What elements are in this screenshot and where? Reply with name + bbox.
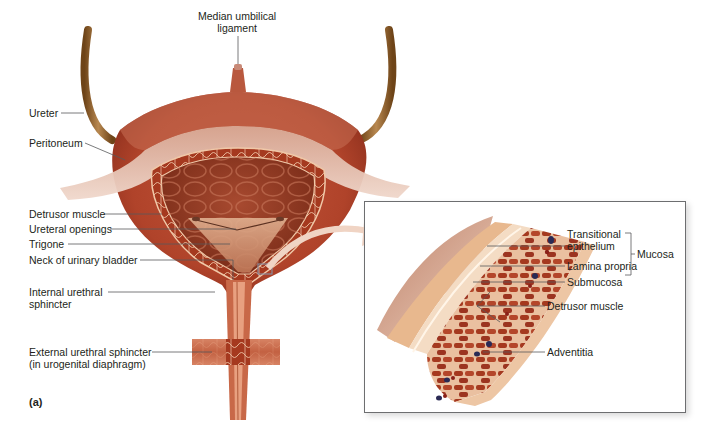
label-lamina-propria: Lamina propria [567, 260, 637, 272]
label-median-umbilical-ligament: Median umbilical ligament [198, 10, 276, 34]
label-line: sphincter [29, 298, 103, 310]
label-detrusor-muscle: Detrusor muscle [29, 208, 105, 220]
right-ureter [360, 30, 392, 140]
label-external-urethral-sphincter: External urethral sphincter (in urogenit… [29, 346, 152, 370]
label-mucosa-bracket: Mucosa [637, 248, 674, 260]
panel-label: (a) [29, 396, 42, 408]
label-trigone: Trigone [29, 238, 64, 250]
label-line: Transitional [567, 228, 621, 240]
label-peritoneum: Peritoneum [29, 137, 83, 149]
label-line: epithelium [567, 240, 621, 252]
label-line: External urethral sphincter [29, 346, 152, 358]
label-ureteral-openings: Ureteral openings [29, 223, 112, 235]
label-internal-urethral-sphincter: Internal urethral sphincter [29, 286, 103, 310]
label-transitional-epithelium: Transitional epithelium [567, 228, 621, 252]
urinary-bladder-diagram: Median umbilical ligament Ureter Periton… [0, 0, 718, 440]
label-line: Internal urethral [29, 286, 103, 298]
label-ureter: Ureter [29, 107, 58, 119]
wall-detail-inset: Transitional epithelium Lamina propria S… [364, 201, 686, 413]
label-line: Median umbilical [198, 10, 276, 22]
wall-section-illustration [365, 202, 685, 412]
label-neck-of-urinary-bladder: Neck of urinary bladder [29, 254, 138, 266]
label-adventitia: Adventitia [547, 346, 593, 358]
label-detrusor-muscle-inset: Detrusor muscle [547, 300, 623, 312]
label-line: ligament [198, 22, 276, 34]
label-submucosa: Submucosa [567, 276, 622, 288]
left-ureter [85, 30, 112, 140]
label-line: (in urogenital diaphragm) [29, 358, 152, 370]
